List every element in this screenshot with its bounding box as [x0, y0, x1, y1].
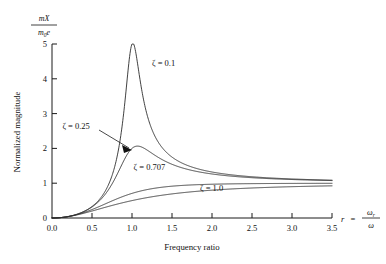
- y-tick-label: 3: [43, 109, 47, 119]
- fraction-den-e: e: [47, 28, 51, 37]
- y-axis-title: Normalized magnitude: [12, 91, 22, 172]
- fraction-numerator: mX: [39, 14, 51, 23]
- y-axis-ticks: [52, 44, 57, 183]
- x-tick-label: 0.0: [47, 223, 58, 233]
- y-tick-label: 5: [43, 39, 47, 49]
- zeta-025-leader-line: [99, 130, 129, 148]
- y-tick-label: 2: [43, 143, 47, 153]
- data-curves: [52, 44, 332, 218]
- x-tick-label: 0.5: [87, 223, 98, 233]
- ratio-equals: =: [350, 214, 356, 224]
- x-axis-ratio-definition: r = ωr ω: [341, 208, 380, 230]
- curve-labels: ζ = 0.1ζ = 0.25ζ = 0.707ζ = 1.0: [62, 58, 223, 193]
- y-axis-units-fraction: mX m0e: [31, 14, 57, 38]
- curve-zeta-0.25: [52, 146, 332, 218]
- x-tick-label: 1.5: [167, 223, 178, 233]
- x-tick-label: 3.0: [287, 223, 298, 233]
- x-axis-tick-labels: 0.00.51.01.52.02.53.03.5: [47, 223, 338, 233]
- x-tick-label: 2.5: [247, 223, 258, 233]
- curve-zeta-1.0: [52, 186, 332, 218]
- x-tick-label: 3.5: [327, 223, 338, 233]
- zeta-025-arrowhead: [122, 145, 132, 153]
- x-axis-title: Frequency ratio: [164, 242, 220, 252]
- ratio-num-sub: r: [373, 212, 376, 218]
- y-tick-label: 4: [43, 74, 48, 84]
- x-tick-label: 1.0: [127, 223, 138, 233]
- y-tick-label: 1: [43, 178, 47, 188]
- y-tick-label: 0: [43, 213, 47, 223]
- curve-label-zeta-1.0: ζ = 1.0: [200, 183, 223, 193]
- curve-label-zeta-0.707: ζ = 0.707: [134, 162, 166, 172]
- curve-label-zeta-0.25: ζ = 0.25: [62, 121, 89, 131]
- ratio-numerator: ωr: [367, 208, 376, 218]
- chart-figure: 012345 0.00.51.01.52.02.53.03.5 ζ = 0.1ζ…: [0, 0, 386, 264]
- normalized-magnitude-chart: 012345 0.00.51.01.52.02.53.03.5 ζ = 0.1ζ…: [0, 0, 386, 264]
- ratio-denominator: ω: [368, 221, 374, 230]
- x-axis-ticks: [92, 213, 332, 218]
- fraction-denominator: m0e: [38, 28, 51, 38]
- y-axis-tick-labels: 012345: [43, 39, 48, 223]
- curve-label-zeta-0.1: ζ = 0.1: [152, 58, 175, 68]
- x-tick-label: 2.0: [207, 223, 218, 233]
- ratio-variable: r: [341, 214, 345, 224]
- curve-zeta-0.707: [52, 183, 332, 218]
